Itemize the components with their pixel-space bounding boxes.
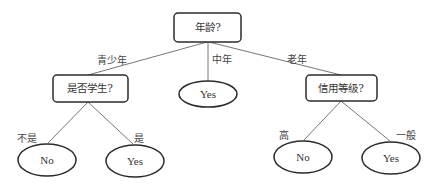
student-node: 是否学生? bbox=[53, 75, 128, 102]
edge-left-to-yes bbox=[88, 102, 133, 144]
leaf-not-student-no-label: No bbox=[40, 154, 54, 166]
leaf-credit-normal-yes-label: Yes bbox=[383, 152, 399, 164]
credit-node: 信用等级? bbox=[306, 75, 377, 101]
edge-label-normal: 一般 bbox=[396, 129, 416, 141]
leaf-credit-high-no: No bbox=[274, 141, 332, 173]
edge-label-high: 高 bbox=[279, 129, 289, 141]
middle-leaf: Yes bbox=[179, 81, 237, 107]
leaf-credit-normal-yes: Yes bbox=[362, 142, 420, 174]
edge-label-middle-age: 中年 bbox=[212, 53, 232, 65]
student-node-label: 是否学生? bbox=[67, 82, 113, 94]
decision-tree-diagram: 年龄? 青少年 中年 老年 是否学生? Yes 信用等级? 不是 是 高 一般 … bbox=[0, 0, 432, 191]
leaf-student-yes: Yes bbox=[106, 145, 164, 177]
edge-right-to-no bbox=[304, 101, 341, 140]
leaf-not-student-no: No bbox=[18, 144, 76, 176]
leaf-student-yes-label: Yes bbox=[127, 155, 143, 167]
edge-label-student: 是 bbox=[134, 133, 144, 144]
middle-leaf-label: Yes bbox=[200, 88, 216, 100]
edge-label-not-student: 不是 bbox=[17, 133, 37, 144]
root-node: 年龄? bbox=[174, 13, 241, 42]
edge-label-senior: 老年 bbox=[287, 53, 307, 65]
credit-node-label: 信用等级? bbox=[318, 82, 364, 94]
edge-left-to-no bbox=[48, 102, 88, 143]
leaf-credit-high-no-label: No bbox=[296, 151, 310, 163]
root-node-label: 年龄? bbox=[195, 21, 221, 33]
edge-right-to-yes bbox=[341, 101, 390, 141]
edge-label-youth: 青少年 bbox=[97, 54, 127, 66]
